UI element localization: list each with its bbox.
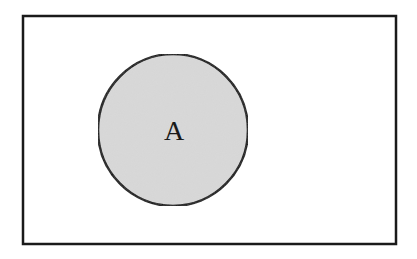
venn-diagram-canvas: A [0, 0, 417, 259]
set-a-label: A [164, 115, 185, 146]
venn-diagram: A [0, 0, 417, 259]
